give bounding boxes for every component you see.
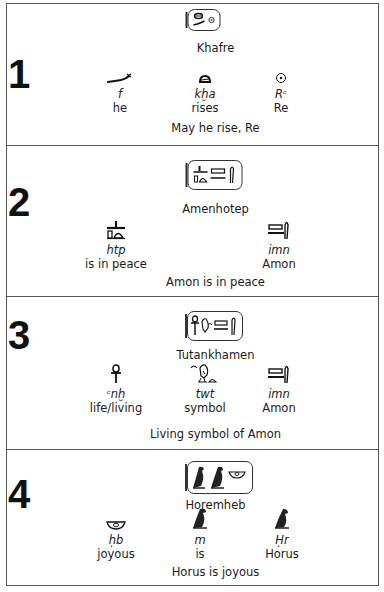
offering-table-icon	[105, 220, 127, 240]
word-life-living: ᶜnḫ life/living	[71, 362, 161, 415]
section-3: 3 Tutankhame	[7, 296, 378, 449]
transliteration: f	[75, 87, 165, 101]
cartouche-glyphs	[190, 163, 240, 187]
quail-chick-icon	[190, 362, 220, 384]
meaning: Horus	[237, 547, 327, 561]
cartouche-tutankhamen	[187, 311, 243, 341]
transliteration: imn	[234, 387, 324, 401]
ankh-icon	[191, 316, 199, 335]
section-4: 4 Horemheb	[7, 449, 378, 587]
owl-icon	[191, 508, 209, 530]
section-number: 1	[8, 54, 30, 94]
translation: Amon is in peace	[30, 275, 384, 289]
placenta-icon	[194, 14, 202, 19]
word-re: Rᶜ Re	[236, 62, 326, 115]
section-number: 2	[8, 182, 30, 222]
meaning: is in peace	[71, 257, 161, 271]
word-is: m is	[155, 508, 245, 561]
transliteration: ᶜnḫ	[71, 387, 161, 401]
meaning: Amon	[234, 257, 324, 271]
king-name: Tutankhamen	[30, 348, 384, 362]
word-he: f he	[75, 62, 165, 115]
cartouche-glyphs	[189, 10, 219, 30]
meaning: Re	[236, 101, 326, 115]
sun-disk-icon	[275, 72, 287, 84]
meaning: Amon	[234, 401, 324, 415]
game-board-reed-icon	[267, 364, 291, 384]
section-1: 1 Khafre f he	[7, 4, 378, 145]
alabaster-basin-icon	[106, 520, 126, 530]
word-amon: imn Amon	[234, 362, 324, 415]
ankh-icon	[109, 364, 123, 384]
transliteration: ḥb	[71, 533, 161, 547]
section-2: 2 Amenhotep	[7, 145, 378, 296]
offering-table-icon	[193, 166, 207, 182]
owl-icon	[211, 466, 224, 487]
chick-icon	[202, 319, 212, 332]
transliteration: Ḥr	[237, 533, 327, 547]
cartouche-amenhotep	[188, 160, 243, 190]
transliteration: m	[155, 533, 245, 547]
meaning: he	[75, 101, 165, 115]
king-name: Khafre	[30, 41, 384, 55]
section-number: 3	[8, 315, 30, 355]
hieroglyph-chart: 1 Khafre f he	[6, 3, 379, 586]
cartouche-glyphs	[189, 464, 251, 492]
reed-leaf-icon	[232, 318, 235, 335]
cartouche-glyphs	[189, 314, 241, 338]
word-amon: imn Amon	[234, 218, 324, 271]
translation: Living symbol of Amon	[30, 427, 384, 441]
falcon-icon	[273, 508, 291, 530]
word-is-in-peace: htp is in peace	[71, 218, 161, 271]
cartouche-horemheb	[187, 461, 253, 494]
falcon-icon	[193, 466, 205, 487]
game-board-icon	[210, 169, 225, 178]
horned-viper-icon	[193, 21, 204, 25]
transliteration: htp	[71, 243, 161, 257]
transliteration: Rᶜ	[236, 87, 326, 101]
translation: May he rise, Re	[30, 121, 384, 135]
reed-leaf-icon	[230, 167, 233, 183]
game-board-icon	[214, 321, 228, 329]
word-joyous: ḥb joyous	[71, 508, 161, 561]
transliteration: imn	[234, 243, 324, 257]
cartouche-khafre	[188, 9, 221, 31]
placenta-icon	[198, 74, 212, 84]
alabaster-basin-icon	[229, 472, 245, 478]
game-board-reed-icon	[267, 220, 291, 240]
sun-disk-icon	[208, 17, 213, 22]
section-number: 4	[8, 474, 30, 514]
translation: Horus is joyous	[30, 565, 384, 579]
meaning: life/living	[71, 401, 161, 415]
king-name: Amenhotep	[30, 202, 384, 216]
word-horus: Ḥr Horus	[237, 508, 327, 561]
horned-viper-icon	[107, 72, 133, 84]
meaning: joyous	[71, 547, 161, 561]
meaning: is	[155, 547, 245, 561]
